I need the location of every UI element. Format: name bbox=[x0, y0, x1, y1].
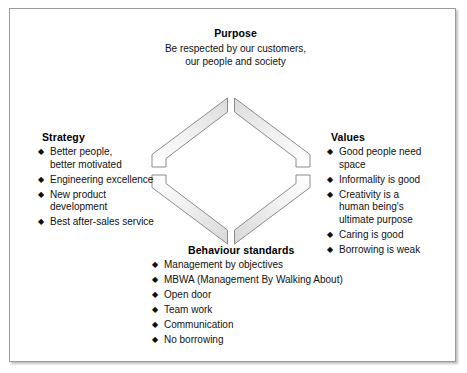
list-item-label: Open door bbox=[164, 289, 211, 300]
list-item: ◆ Best after-sales service bbox=[38, 216, 173, 229]
diamond-graphic bbox=[150, 96, 312, 246]
values-block: Values ◆ Good people need space ◆ Inform… bbox=[327, 131, 449, 259]
list-item-label: New product development bbox=[50, 189, 107, 213]
diamond-bullet-icon: ◆ bbox=[38, 174, 44, 187]
values-heading: Values bbox=[331, 131, 449, 144]
list-item-label: Better people, better motivated bbox=[50, 146, 122, 170]
diamond-bullet-icon: ◆ bbox=[152, 304, 158, 317]
list-item-label: Best after-sales service bbox=[50, 216, 154, 227]
strategy-heading: Strategy bbox=[42, 131, 173, 144]
list-item: ◆ No borrowing bbox=[152, 334, 382, 347]
diamond-bullet-icon: ◆ bbox=[152, 334, 158, 347]
diamond-bullet-icon: ◆ bbox=[327, 146, 333, 159]
diamond-bullet-icon: ◆ bbox=[152, 289, 158, 302]
diamond-bottom-right-segment bbox=[235, 175, 311, 244]
list-item: ◆ Creativity is a human being's ultimate… bbox=[327, 189, 449, 227]
diamond-bullet-icon: ◆ bbox=[152, 319, 158, 332]
list-item: ◆ Open door bbox=[152, 289, 382, 302]
list-item-label: Informality is good bbox=[339, 174, 420, 185]
diamond-bullet-icon: ◆ bbox=[38, 216, 44, 229]
diamond-bullet-icon: ◆ bbox=[152, 274, 158, 287]
list-item-label: Caring is good bbox=[339, 229, 403, 240]
diamond-bullet-icon: ◆ bbox=[327, 189, 333, 202]
list-item: ◆ MBWA (Management By Walking About) bbox=[152, 274, 382, 287]
purpose-heading: Purpose bbox=[133, 27, 338, 40]
list-item: ◆ Engineering excellence bbox=[38, 174, 173, 187]
strategy-block: Strategy ◆ Better people, better motivat… bbox=[38, 131, 173, 232]
list-item-label: Management by objectives bbox=[164, 259, 283, 270]
list-item-label: MBWA (Management By Walking About) bbox=[164, 274, 343, 285]
diamond-top-right-segment bbox=[235, 98, 311, 167]
list-item-label: No borrowing bbox=[164, 334, 223, 345]
diamond-bullet-icon: ◆ bbox=[152, 259, 158, 272]
behaviour-standards-list: ◆ Management by objectives ◆ MBWA (Manag… bbox=[152, 259, 382, 347]
purpose-line-1: Be respected by our customers, bbox=[133, 42, 338, 55]
list-item-label: Team work bbox=[164, 304, 212, 315]
values-list: ◆ Good people need space ◆ Informality i… bbox=[327, 146, 449, 257]
diagram-figure: Purpose Be respected by our customers, o… bbox=[0, 0, 467, 373]
diamond-bullet-icon: ◆ bbox=[327, 174, 333, 187]
behaviour-standards-heading: Behaviour standards bbox=[188, 244, 382, 257]
purpose-line-2: our people and society bbox=[133, 55, 338, 68]
list-item: ◆ Team work bbox=[152, 304, 382, 317]
diamond-bullet-icon: ◆ bbox=[327, 229, 333, 242]
list-item-label: Good people need space bbox=[339, 146, 421, 170]
list-item-label: Communication bbox=[164, 319, 233, 330]
list-item-label: Engineering excellence bbox=[50, 174, 153, 185]
diamond-bullet-icon: ◆ bbox=[38, 146, 44, 159]
diamond-bullet-icon: ◆ bbox=[38, 189, 44, 202]
list-item: ◆ Informality is good bbox=[327, 174, 449, 187]
list-item: ◆ Caring is good bbox=[327, 229, 449, 242]
list-item: ◆ Better people, better motivated bbox=[38, 146, 173, 171]
list-item: ◆ New product development bbox=[38, 189, 173, 214]
purpose-block: Purpose Be respected by our customers, o… bbox=[133, 27, 338, 68]
list-item: ◆ Management by objectives bbox=[152, 259, 382, 272]
list-item: ◆ Good people need space bbox=[327, 146, 449, 171]
list-item: ◆ Communication bbox=[152, 319, 382, 332]
behaviour-standards-block: Behaviour standards ◆ Management by obje… bbox=[152, 244, 382, 350]
list-item-label: Creativity is a human being's ultimate p… bbox=[339, 189, 413, 225]
strategy-list: ◆ Better people, better motivated ◆ Engi… bbox=[38, 146, 173, 229]
